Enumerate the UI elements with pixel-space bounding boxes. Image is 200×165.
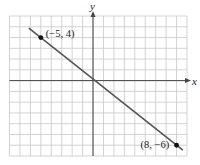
point-label-8-neg6: (8, −6)	[141, 139, 170, 151]
plotted-line	[29, 28, 183, 150]
grid-lines	[10, 16, 188, 156]
y-axis-label: y	[89, 0, 95, 12]
point-marker-neg5-4	[38, 35, 43, 40]
x-axis-label: x	[191, 75, 197, 87]
point-label-neg5-4: (−5, 4)	[46, 28, 75, 40]
coordinate-plane: x y (−5, 4) (8, −6)	[0, 0, 200, 165]
point-marker-8-neg6	[174, 143, 179, 148]
x-axis-arrow-icon	[185, 78, 191, 83]
